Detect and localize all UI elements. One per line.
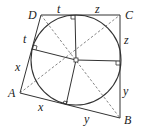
quadrilateral-abcd <box>20 15 120 118</box>
right-angle-marker-right <box>116 61 120 65</box>
segment-label-dc-right: z <box>94 2 100 16</box>
segment-label-cb-top: z <box>123 33 129 47</box>
segment-label-dc-left: t <box>57 2 61 16</box>
vertex-label-b: B <box>124 113 132 127</box>
radius-left <box>32 49 76 60</box>
vertex-label-d: D <box>27 8 37 22</box>
dashed-line-to-a <box>20 15 120 93</box>
vertex-label-c: C <box>125 8 134 22</box>
segment-label-ad-top: t <box>23 32 27 46</box>
radius-bottom <box>66 60 76 105</box>
center-point-marker <box>74 58 78 62</box>
vertex-label-a: A <box>7 86 16 100</box>
radius-top <box>75 15 76 60</box>
segment-label-ad-bottom: x <box>14 60 21 74</box>
segment-label-cb-bottom: y <box>122 84 129 98</box>
radius-right <box>76 60 120 61</box>
dashed-line-to-d <box>41 15 120 118</box>
segment-label-ba-left: x <box>37 100 44 114</box>
tangential-quadrilateral-diagram: D C A B t z z y y x x t <box>0 0 141 128</box>
segment-label-ba-right: y <box>83 112 90 126</box>
